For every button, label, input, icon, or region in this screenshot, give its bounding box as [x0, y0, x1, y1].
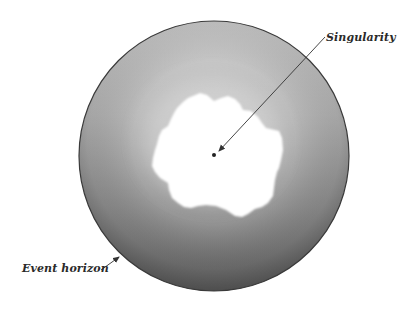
singularity-label: Singularity [326, 31, 396, 44]
event-horizon-label: Event horizon [22, 262, 109, 275]
singularity-dot [212, 153, 216, 157]
diagram-canvas: Singularity Event horizon [0, 0, 411, 311]
